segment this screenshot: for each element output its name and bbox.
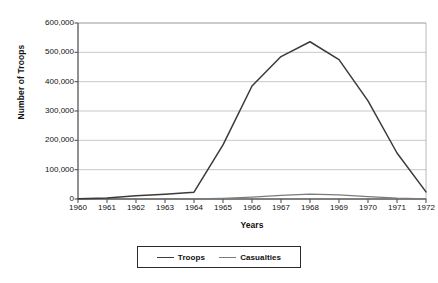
x-tick-label: 1968 <box>295 203 325 212</box>
x-tick-label: 1966 <box>237 203 267 212</box>
x-tick-label: 1963 <box>150 203 180 212</box>
x-tick-label: 1961 <box>92 203 122 212</box>
legend-label-casualties: Casualties <box>240 253 281 262</box>
x-tick-label: 1967 <box>266 203 296 212</box>
legend-item-troops[interactable]: Troops <box>157 253 205 262</box>
chart-legend: Troops Casualties <box>137 246 301 268</box>
line-chart: Number of Troops 0100,000200,000300,0004… <box>0 0 438 283</box>
x-tick-label: 1971 <box>382 203 412 212</box>
x-axis-title: Years <box>78 220 426 230</box>
x-tick-label: 1964 <box>179 203 209 212</box>
legend-line-swatch-casualties <box>219 257 236 258</box>
legend-item-casualties[interactable]: Casualties <box>219 253 281 262</box>
x-axis-tick-labels: 1960196119621963196419651966196719681969… <box>0 0 438 283</box>
legend-line-swatch-troops <box>157 257 174 258</box>
x-tick-label: 1960 <box>63 203 93 212</box>
x-tick-label: 1969 <box>324 203 354 212</box>
x-tick-label: 1972 <box>411 203 438 212</box>
x-tick-label: 1970 <box>353 203 383 212</box>
x-tick-label: 1965 <box>208 203 238 212</box>
legend-label-troops: Troops <box>178 253 205 262</box>
x-tick-label: 1962 <box>121 203 151 212</box>
